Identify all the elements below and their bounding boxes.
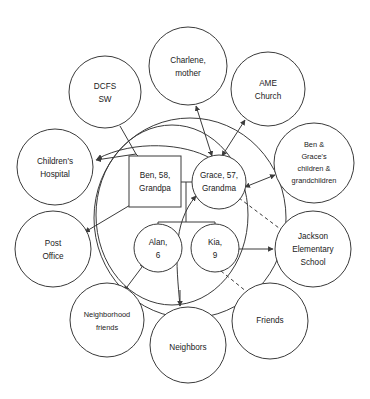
node-alan-label-line2: 6 bbox=[156, 251, 161, 260]
node-neighbors-label: Neighbors bbox=[169, 343, 206, 352]
node-ben-label-line1: Ben, 58, bbox=[140, 171, 171, 180]
ecomap-diagram: Ben, 58, Grandpa Grace, 57, Grandma Alan… bbox=[0, 0, 370, 399]
node-neighborhood-friends[interactable]: Neighborhood friends bbox=[70, 283, 144, 357]
link-nbhdfriends-alan bbox=[124, 263, 145, 291]
household-members: Ben, 58, Grandpa Grace, 57, Grandma Alan… bbox=[129, 155, 246, 272]
node-dcfs[interactable]: DCFS SW bbox=[69, 56, 141, 128]
node-alan-circle[interactable] bbox=[134, 224, 182, 272]
node-childrens-hospital-label-line2: Hospital bbox=[40, 170, 70, 179]
node-jackson-elementary-label-line2: Elementary bbox=[292, 245, 334, 254]
node-ame-church[interactable]: AME Church bbox=[231, 52, 305, 126]
link-bengrace-grace bbox=[245, 175, 275, 187]
node-childrens-hospital-label-line1: Children's bbox=[37, 157, 73, 166]
node-charlene-label-line1: Charlene, bbox=[170, 56, 206, 65]
node-ben-grace-children[interactable]: Ben & Grace's children & grandchildren bbox=[274, 123, 354, 203]
node-grace[interactable]: Grace, 57, Grandma bbox=[192, 155, 246, 209]
node-charlene-label-line2: mother bbox=[175, 69, 201, 78]
node-childrens-hospital-circle[interactable] bbox=[17, 129, 93, 205]
external-nodes: DCFS SW Charlene, mother AME Church Ben … bbox=[15, 27, 354, 383]
node-kia-circle[interactable] bbox=[191, 224, 239, 272]
node-neighborhood-friends-circle[interactable] bbox=[70, 283, 144, 357]
node-ben-square[interactable] bbox=[129, 156, 181, 207]
node-alan[interactable]: Alan, 6 bbox=[134, 224, 182, 272]
node-post-office-label-line2: Office bbox=[42, 252, 64, 261]
node-post-office-circle[interactable] bbox=[15, 211, 91, 287]
node-dcfs-label-line1: DCFS bbox=[94, 82, 117, 91]
node-grace-circle[interactable] bbox=[192, 155, 246, 209]
node-charlene-circle[interactable] bbox=[149, 27, 227, 105]
node-ben-grace-children-label-line2: Grace's bbox=[301, 152, 327, 161]
node-grace-label-line2: Grandma bbox=[202, 184, 237, 193]
node-ben-grace-children-label-line1: Ben & bbox=[304, 140, 324, 149]
node-ben[interactable]: Ben, 58, Grandpa bbox=[129, 156, 181, 207]
node-kia-label-line2: 9 bbox=[213, 251, 218, 260]
node-ame-church-label-line1: AME bbox=[259, 79, 277, 88]
node-friends-label: Friends bbox=[256, 316, 283, 325]
household-boundary-inner bbox=[96, 125, 248, 305]
node-friends[interactable]: Friends bbox=[232, 283, 308, 359]
node-dcfs-circle[interactable] bbox=[69, 56, 141, 128]
node-ben-grace-children-label-line4: grandchildren bbox=[292, 176, 337, 185]
node-jackson-elementary[interactable]: Jackson Elementary School bbox=[275, 211, 351, 287]
node-kia-label-line1: Kia, bbox=[208, 238, 222, 247]
link-grace-jackson-dashed bbox=[239, 198, 283, 231]
node-ame-church-label-line2: Church bbox=[255, 92, 282, 101]
node-jackson-elementary-label-line3: School bbox=[300, 258, 325, 267]
node-dcfs-label-line2: SW bbox=[98, 95, 111, 104]
node-ame-church-circle[interactable] bbox=[231, 52, 305, 126]
connection-lines bbox=[85, 106, 283, 306]
link-kia-friends-dashed bbox=[221, 271, 247, 292]
node-kia[interactable]: Kia, 9 bbox=[191, 224, 239, 272]
node-childrens-hospital[interactable]: Children's Hospital bbox=[17, 129, 93, 205]
node-neighborhood-friends-label-line1: Neighborhood bbox=[84, 310, 130, 319]
node-ben-label-line2: Grandpa bbox=[139, 184, 171, 193]
node-post-office[interactable]: Post Office bbox=[15, 211, 91, 287]
node-grace-label-line1: Grace, 57, bbox=[200, 171, 238, 180]
node-charlene[interactable]: Charlene, mother bbox=[149, 27, 227, 105]
node-post-office-label-line1: Post bbox=[45, 239, 62, 248]
node-alan-label-line1: Alan, bbox=[149, 238, 168, 247]
node-neighborhood-friends-label-line2: friends bbox=[96, 323, 118, 332]
node-neighbors[interactable]: Neighbors bbox=[150, 307, 226, 383]
node-ben-grace-children-label-line3: children & bbox=[298, 164, 331, 173]
node-jackson-elementary-label-line1: Jackson bbox=[298, 232, 328, 241]
